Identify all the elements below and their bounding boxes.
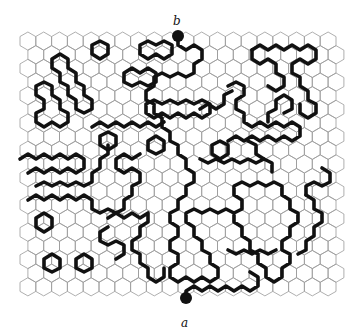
bold-loop-path xyxy=(100,227,124,259)
endpoint-label-a: a xyxy=(181,316,188,330)
bold-loop-path xyxy=(140,41,172,59)
hex-grid xyxy=(20,32,344,296)
endpoint-dot-b xyxy=(172,30,184,42)
hex-cells xyxy=(20,32,344,296)
bold-loop-path xyxy=(92,41,108,59)
bold-loop-path xyxy=(76,254,92,272)
bold-loop-path xyxy=(108,213,164,282)
loop-paths xyxy=(20,36,330,298)
bold-loop-path xyxy=(20,154,84,173)
bold-loop-path xyxy=(248,141,264,159)
bold-loop-path xyxy=(186,272,258,298)
bold-loop-path xyxy=(92,122,164,127)
endpoint-dot-a xyxy=(180,292,192,304)
hex-lattice-diagram: b a xyxy=(0,0,362,334)
endpoint-label-b: b xyxy=(173,14,181,28)
bold-loop-path xyxy=(36,145,108,186)
lattice-svg xyxy=(0,0,362,334)
